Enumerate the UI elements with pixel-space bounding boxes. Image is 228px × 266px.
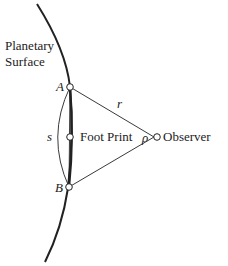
footprint-label: Foot Print: [80, 129, 132, 144]
point-b-label: B: [55, 180, 63, 195]
surface-label-line2: Surface: [5, 54, 45, 69]
footprint-marker: [67, 134, 74, 141]
angle-rho-label: ρ: [142, 130, 148, 145]
observer-label: Observer: [163, 129, 211, 144]
surface-label-line1: Planetary: [5, 38, 54, 53]
point-a-label: A: [56, 79, 64, 94]
point-a-marker: [67, 84, 74, 91]
range-r-label: r: [117, 96, 122, 111]
observer-marker: [154, 134, 161, 141]
arc-s-label: s: [47, 129, 52, 144]
point-b-marker: [66, 184, 73, 191]
